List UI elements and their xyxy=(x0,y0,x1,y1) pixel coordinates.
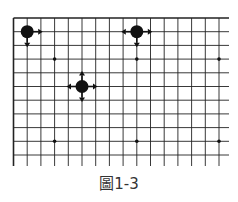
star-point xyxy=(217,140,221,144)
star-point xyxy=(135,57,139,61)
star-point xyxy=(217,57,221,61)
black-stone xyxy=(130,25,143,38)
star-point xyxy=(53,57,57,61)
stones xyxy=(21,25,153,102)
figure-caption: 圖1-3 xyxy=(0,172,238,193)
board-grid xyxy=(14,18,230,166)
black-stone xyxy=(76,80,89,93)
star-point xyxy=(53,140,57,144)
star-point xyxy=(135,140,139,144)
black-stone xyxy=(21,25,34,38)
arrow-left-icon xyxy=(121,29,126,35)
